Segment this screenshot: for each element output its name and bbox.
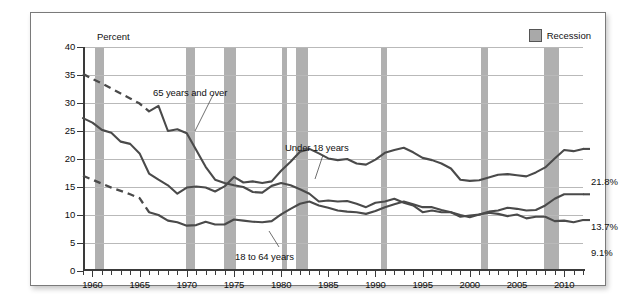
x-tick-minor — [206, 271, 207, 275]
series-dashed-segment — [83, 74, 149, 112]
x-tick-label: 1995 — [403, 279, 443, 290]
x-tick-minor — [215, 271, 216, 275]
x-tick-minor — [319, 271, 320, 275]
x-tick-minor — [243, 271, 244, 275]
x-tick-minor — [272, 271, 273, 275]
chart-screenshot: Percent Recession 0510152025303540 19601… — [0, 0, 624, 306]
x-tick-minor — [385, 271, 386, 275]
series-lines — [83, 47, 583, 271]
series-label-under-18: Under 18 years — [285, 142, 349, 153]
series-line — [149, 194, 583, 225]
x-tick-minor — [158, 271, 159, 275]
x-tick-major — [92, 271, 93, 277]
x-tick-minor — [555, 271, 556, 275]
x-tick-minor — [498, 271, 499, 275]
series-label-65-and-over: 65 years and over — [153, 87, 227, 98]
x-tick-minor — [460, 271, 461, 275]
x-tick-minor — [225, 271, 226, 275]
x-tick-label: 1990 — [355, 279, 395, 290]
plot-area: 0510152025303540 19601965197019751980198… — [83, 47, 583, 271]
annotation-leader-line — [315, 155, 323, 179]
x-tick-label: 2000 — [450, 279, 490, 290]
x-tick-major — [140, 271, 141, 277]
y-tick-label: 10 — [51, 209, 75, 220]
end-label-18-to-64: 13.7% — [591, 221, 618, 232]
y-tick-label: 35 — [51, 69, 75, 80]
x-tick-minor — [291, 271, 292, 275]
x-tick-minor — [536, 271, 537, 275]
x-tick-minor — [441, 271, 442, 275]
x-tick-major — [375, 271, 376, 277]
x-tick-minor — [168, 271, 169, 275]
x-tick-label: 1960 — [72, 279, 112, 290]
y-tick-label: 20 — [51, 153, 75, 164]
y-tick-label: 25 — [51, 125, 75, 136]
end-label-65-and-over: 9.1% — [591, 247, 613, 258]
x-tick-minor — [404, 271, 405, 275]
x-tick-minor — [545, 271, 546, 275]
annotation-leader-line — [195, 95, 213, 131]
x-tick-minor — [111, 271, 112, 275]
x-tick-label: 1970 — [167, 279, 207, 290]
x-tick-label: 1965 — [120, 279, 160, 290]
y-tick-label: 0 — [51, 265, 75, 276]
chart-legend: Recession — [529, 29, 591, 42]
annotation-leader-line — [269, 231, 279, 247]
chart-page-frame: Percent Recession 0510152025303540 19601… — [30, 12, 606, 286]
x-tick-minor — [394, 271, 395, 275]
x-tick-label: 2005 — [497, 279, 537, 290]
x-tick-major — [564, 271, 565, 277]
recession-swatch-icon — [529, 29, 542, 42]
x-tick-minor — [309, 271, 310, 275]
x-tick-minor — [489, 271, 490, 275]
x-tick-major — [234, 271, 235, 277]
x-tick-minor — [583, 271, 584, 275]
x-tick-minor — [366, 271, 367, 275]
x-tick-minor — [177, 271, 178, 275]
x-tick-minor — [432, 271, 433, 275]
x-tick-minor — [196, 271, 197, 275]
end-label-under-18: 21.8% — [591, 176, 618, 187]
x-tick-major — [423, 271, 424, 277]
series-dashed-segment — [83, 176, 149, 212]
x-tick-minor — [102, 271, 103, 275]
x-tick-minor — [347, 271, 348, 275]
x-tick-label: 2010 — [544, 279, 584, 290]
x-tick-minor — [121, 271, 122, 275]
y-axis-title: Percent — [97, 31, 130, 42]
x-tick-minor — [262, 271, 263, 275]
x-tick-label: 1980 — [261, 279, 301, 290]
series-label-18-to-64: 18 to 64 years — [235, 251, 294, 262]
x-tick-label: 1985 — [308, 279, 348, 290]
y-tick-label: 15 — [51, 181, 75, 192]
x-tick-minor — [526, 271, 527, 275]
x-tick-minor — [574, 271, 575, 275]
x-tick-minor — [413, 271, 414, 275]
y-tick-label: 5 — [51, 237, 75, 248]
x-tick-major — [517, 271, 518, 277]
x-tick-major — [187, 271, 188, 277]
x-tick-minor — [479, 271, 480, 275]
y-tick-label: 30 — [51, 97, 75, 108]
x-tick-major — [328, 271, 329, 277]
series-line — [83, 118, 583, 194]
plot-canvas — [83, 47, 583, 271]
y-tick-label: 40 — [51, 41, 75, 52]
x-tick-minor — [338, 271, 339, 275]
x-tick-minor — [508, 271, 509, 275]
x-tick-major — [281, 271, 282, 277]
x-tick-major — [470, 271, 471, 277]
legend-label-recession: Recession — [547, 30, 591, 41]
x-tick-minor — [357, 271, 358, 275]
x-tick-minor — [130, 271, 131, 275]
x-tick-minor — [253, 271, 254, 275]
x-tick-label: 1975 — [214, 279, 254, 290]
x-tick-minor — [83, 271, 84, 275]
x-tick-minor — [451, 271, 452, 275]
x-tick-minor — [149, 271, 150, 275]
x-tick-minor — [300, 271, 301, 275]
